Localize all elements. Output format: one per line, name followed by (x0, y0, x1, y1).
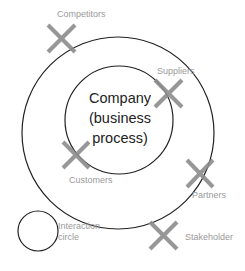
partners-label: Partners (192, 190, 226, 201)
legend-interaction-label-line-1: Interaction (58, 221, 100, 232)
company-label-line-3: process) (80, 128, 160, 148)
legend-interaction-circle-icon (18, 211, 58, 251)
company-label: Company (business process) (80, 88, 160, 148)
legend-stakeholder-label: Stakeholder (185, 232, 233, 243)
legend-interaction-label-line-2: circle (58, 232, 79, 243)
legend-stakeholder-cross-icon (150, 222, 177, 249)
competitors-cross-icon (48, 25, 75, 52)
competitors-label: Competitors (57, 9, 106, 20)
company-label-line-1: Company (80, 88, 160, 108)
stakeholder-diagram: Company (business process) Competitors S… (0, 0, 245, 271)
suppliers-label: Suppliers (157, 66, 195, 77)
customers-label: Customers (69, 175, 113, 186)
company-label-line-2: (business (80, 108, 160, 128)
